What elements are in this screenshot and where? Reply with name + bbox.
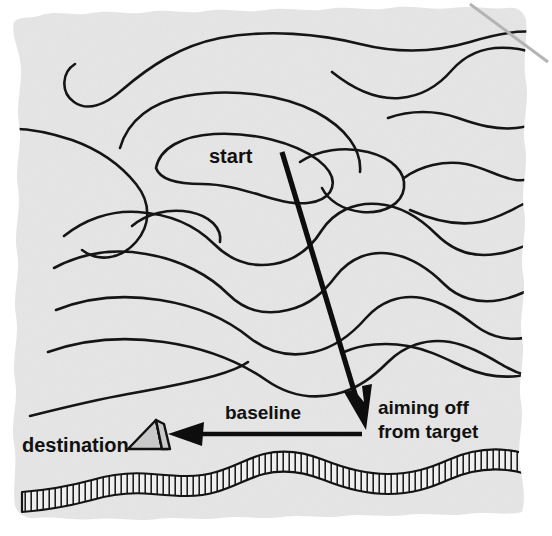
label-destination: destination bbox=[22, 434, 129, 456]
label-start: start bbox=[209, 145, 253, 167]
paper-sheet: start destination baseline aiming off fr… bbox=[0, 0, 552, 536]
label-baseline: baseline bbox=[225, 402, 301, 423]
figure-canvas: start destination baseline aiming off fr… bbox=[0, 0, 552, 536]
label-aiming-off-line1: aiming off bbox=[378, 397, 469, 418]
navigation-diagram: start destination baseline aiming off fr… bbox=[0, 0, 552, 536]
label-aiming-off-line2: from target bbox=[378, 421, 479, 442]
